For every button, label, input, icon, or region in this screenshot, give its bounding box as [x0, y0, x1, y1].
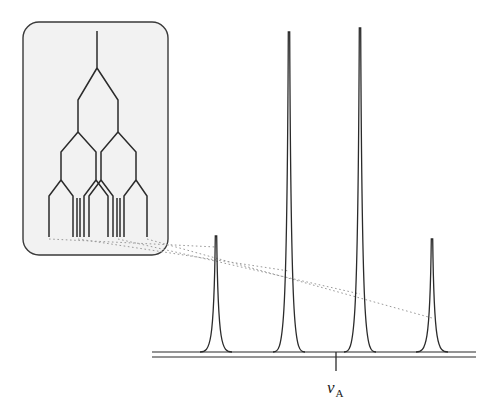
spectrum-peak-3 — [344, 28, 376, 352]
nu-a-symbol: ν — [327, 378, 335, 397]
guide-line-4 — [147, 239, 432, 318]
nmr-figure: νA — [0, 0, 499, 413]
nu-a-label: νA — [327, 378, 344, 399]
nu-a-subscript: A — [336, 387, 344, 399]
spectrum-peak-4 — [416, 239, 448, 352]
spectrum-baseline — [152, 352, 476, 357]
spectrum-peak-2 — [273, 32, 305, 352]
figure-root: νA — [0, 0, 499, 413]
nu-a-center-marker: νA — [327, 352, 344, 399]
nmr-spectrum: νA — [152, 28, 476, 399]
spectrum-peaks — [200, 28, 448, 352]
spectrum-peak-1 — [200, 236, 232, 352]
